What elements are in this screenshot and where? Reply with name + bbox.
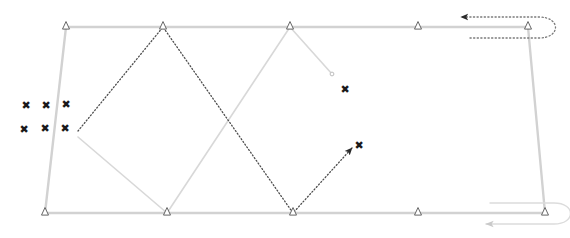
- field-boundary-group: [45, 27, 545, 213]
- waypoint-marker-t3[interactable]: [287, 22, 294, 30]
- obstacle-marker-x4[interactable]: ✖: [19, 124, 28, 135]
- waypoint-marker-t2[interactable]: [160, 22, 167, 30]
- diagram-canvas-container: ✖✖✖✖✖✖✖✖: [0, 0, 570, 238]
- headland-turns-group: [461, 17, 570, 224]
- obstacle-marker-x2[interactable]: ✖: [41, 100, 50, 111]
- obstacle-marker-x8[interactable]: ✖: [354, 140, 363, 151]
- obstacle-marker-x1[interactable]: ✖: [21, 100, 30, 111]
- obstacle-marker-x5[interactable]: ✖: [40, 123, 49, 134]
- field-boundary: [45, 27, 545, 213]
- obstacle-marker-x6[interactable]: ✖: [60, 123, 69, 134]
- coverage-paths-group: [78, 27, 352, 213]
- coverage-pass-light-endpoint-dot: [330, 72, 334, 76]
- waypoint-marker-b4[interactable]: [415, 208, 422, 216]
- waypoint-marker-t5[interactable]: [525, 22, 532, 30]
- obstacle-marker-x3[interactable]: ✖: [61, 99, 70, 110]
- waypoint-marker-b1[interactable]: [42, 208, 49, 216]
- field-path-diagram-svg: [0, 0, 570, 238]
- waypoint-marker-t4[interactable]: [415, 22, 422, 30]
- waypoint-marker-b5[interactable]: [542, 208, 549, 216]
- coverage-pass-light: [78, 27, 332, 213]
- coverage-pass-dark: [78, 27, 352, 213]
- waypoint-markers-group: [42, 22, 549, 216]
- waypoint-marker-t1[interactable]: [63, 22, 70, 30]
- obstacle-marker-x7[interactable]: ✖: [340, 84, 349, 95]
